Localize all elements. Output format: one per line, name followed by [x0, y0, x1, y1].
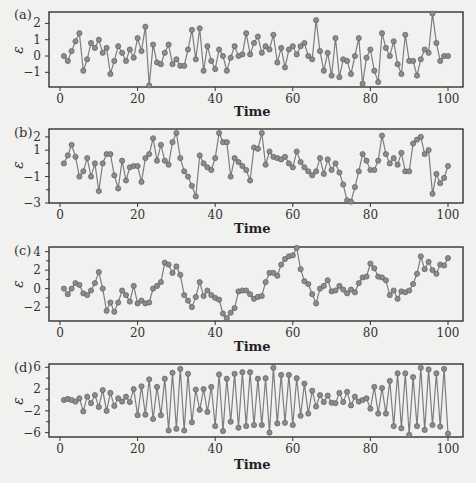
- data-point: [248, 370, 253, 375]
- data-point: [414, 424, 419, 429]
- data-point: [286, 372, 291, 377]
- data-point: [131, 387, 136, 392]
- data-point: [379, 385, 384, 390]
- data-point: [162, 376, 167, 381]
- data-point: [96, 404, 101, 409]
- data-point: [240, 370, 245, 375]
- data-point: [201, 387, 206, 392]
- data-point: [244, 424, 249, 429]
- data-point: [213, 424, 218, 429]
- data-point: [77, 396, 82, 401]
- data-point: [209, 384, 214, 389]
- data-point: [170, 370, 175, 375]
- y-tick-label: −2: [23, 404, 41, 418]
- data-point: [348, 403, 353, 408]
- data-point: [182, 428, 187, 433]
- data-point: [302, 381, 307, 386]
- y-tick-label: 6: [33, 360, 41, 374]
- data-point: [411, 375, 416, 380]
- x-axis-label: Time: [234, 457, 271, 472]
- data-point: [434, 371, 439, 376]
- data-point: [364, 396, 369, 401]
- line-chart: 02040608010062−2−6: [0, 0, 476, 483]
- data-point: [395, 371, 400, 376]
- data-point: [108, 390, 113, 395]
- data-point: [372, 384, 377, 389]
- x-tick-label: 20: [130, 442, 145, 456]
- data-point: [391, 424, 396, 429]
- data-point: [236, 425, 241, 430]
- data-point: [290, 422, 295, 427]
- data-point: [352, 394, 357, 399]
- data-point: [341, 400, 346, 405]
- data-point: [88, 401, 93, 406]
- data-point: [314, 404, 319, 409]
- data-point: [267, 430, 272, 435]
- data-point: [368, 406, 373, 411]
- data-point: [232, 371, 237, 376]
- data-point: [197, 407, 202, 412]
- data-point: [337, 390, 342, 395]
- x-tick-label: 100: [437, 442, 460, 456]
- data-point: [271, 365, 276, 370]
- data-point: [387, 378, 392, 383]
- data-point: [333, 401, 338, 406]
- data-point: [259, 422, 264, 427]
- y-tick-label: −6: [23, 426, 41, 440]
- data-point: [345, 389, 350, 394]
- data-point: [442, 366, 447, 371]
- data-point: [92, 393, 97, 398]
- data-point: [317, 393, 322, 398]
- data-point: [147, 377, 152, 382]
- data-point: [217, 372, 222, 377]
- data-point: [224, 376, 229, 381]
- data-point: [275, 421, 280, 426]
- data-point: [166, 428, 171, 433]
- data-point: [325, 393, 330, 398]
- data-point: [120, 399, 125, 404]
- data-point: [426, 367, 431, 372]
- panel-d: (d) ε 02040608010062−2−6 Time: [0, 0, 476, 483]
- data-point: [263, 376, 268, 381]
- data-point: [310, 388, 315, 393]
- data-point: [185, 371, 190, 376]
- data-point: [85, 394, 90, 399]
- data-point: [139, 384, 144, 389]
- data-point: [321, 400, 326, 405]
- data-point: [104, 408, 109, 413]
- data-point: [298, 413, 303, 418]
- data-point: [112, 403, 117, 408]
- x-tick-label: 60: [285, 442, 300, 456]
- x-tick-label: 40: [208, 442, 223, 456]
- data-point: [228, 419, 233, 424]
- data-point: [143, 412, 148, 417]
- x-tick-label: 0: [56, 442, 64, 456]
- data-point: [255, 376, 260, 381]
- data-point: [251, 422, 256, 427]
- data-point: [100, 388, 105, 393]
- data-point: [438, 424, 443, 429]
- data-point: [279, 372, 284, 377]
- data-point: [418, 365, 423, 370]
- data-point: [135, 413, 140, 418]
- data-point: [189, 420, 194, 425]
- data-point: [403, 371, 408, 376]
- data-point: [178, 366, 183, 371]
- data-point: [399, 426, 404, 431]
- data-point: [376, 411, 381, 416]
- data-point: [123, 394, 128, 399]
- data-point: [193, 387, 198, 392]
- y-tick-label: 2: [33, 382, 41, 396]
- data-point: [407, 432, 412, 437]
- data-point: [127, 400, 132, 405]
- data-point: [294, 376, 299, 381]
- data-point: [205, 409, 210, 414]
- data-point: [151, 416, 156, 421]
- data-point: [445, 431, 450, 436]
- figure: (a) ε 020406080100210−1 Time (b) ε 02040…: [0, 0, 476, 483]
- data-point: [158, 413, 163, 418]
- data-point: [154, 384, 159, 389]
- data-point: [306, 411, 311, 416]
- data-point: [282, 420, 287, 425]
- data-point: [430, 422, 435, 427]
